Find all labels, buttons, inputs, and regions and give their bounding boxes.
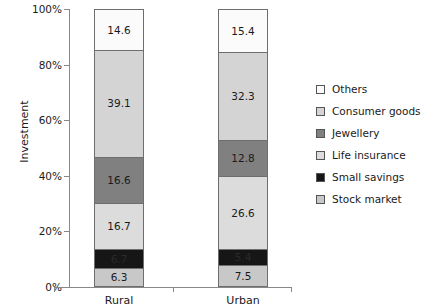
legend-item-label: Life insurance — [332, 149, 406, 161]
bar-segment-value: 6.7 — [111, 254, 128, 265]
bar-rural: 14.639.116.616.76.76.3 — [94, 9, 144, 287]
bar-segment-value: 5.4 — [235, 252, 252, 263]
legend-swatch-icon — [316, 129, 325, 138]
legend-item: Jewellery — [316, 122, 425, 144]
stacked-bar-chart: Investment 0%20%40%60%80%100% 14.639.116… — [0, 0, 425, 305]
bar-segment: 15.4 — [218, 9, 268, 52]
bar-segment: 32.3 — [218, 52, 268, 141]
bar-segment: 16.7 — [94, 203, 144, 249]
bar-urban: 15.432.312.826.65.47.5 — [218, 9, 268, 287]
bar-segment: 26.6 — [218, 176, 268, 249]
x-axis-category-label: Urban — [198, 294, 288, 305]
y-axis-tick-label: 20% — [18, 225, 62, 237]
legend-item-label: Stock market — [332, 193, 402, 205]
y-axis-tick-label: 100% — [18, 3, 62, 15]
legend-item-label: Small savings — [332, 171, 404, 183]
legend-swatch-icon — [316, 85, 325, 94]
x-axis-tick-mark — [54, 287, 55, 292]
plot-area: 14.639.116.616.76.76.3 15.432.312.826.65… — [69, 9, 291, 287]
legend-item: Small savings — [316, 166, 425, 188]
y-axis-tick-labels: 0%20%40%60%80%100% — [18, 0, 62, 305]
legend-swatch-icon — [316, 195, 325, 204]
bar-segment-value: 16.6 — [107, 175, 130, 186]
y-axis-tick-label: 80% — [18, 59, 62, 71]
legend-item-label: Others — [332, 83, 367, 95]
bar-segment-value: 6.3 — [111, 272, 128, 283]
legend-item: Others — [316, 78, 425, 100]
legend-swatch-icon — [316, 173, 325, 182]
legend-item: Life insurance — [316, 144, 425, 166]
bar-segment: 39.1 — [94, 50, 144, 157]
legend-swatch-icon — [316, 151, 325, 160]
bar-segment-value: 7.5 — [235, 271, 252, 282]
legend-item-label: Jewellery — [332, 127, 379, 139]
x-axis-tick-mark — [291, 287, 292, 292]
chart-legend: OthersConsumer goodsJewelleryLife insura… — [316, 78, 425, 210]
bar-segment-value: 16.7 — [107, 221, 130, 232]
bar-segment: 7.5 — [218, 265, 268, 287]
bar-segment-value: 14.6 — [107, 25, 130, 36]
bar-segment: 14.6 — [94, 9, 144, 50]
legend-item: Consumer goods — [316, 100, 425, 122]
bar-segment: 5.4 — [218, 249, 268, 265]
legend-item-label: Consumer goods — [332, 105, 421, 117]
bar-segment: 6.3 — [94, 268, 144, 287]
bar-segment-value: 39.1 — [107, 98, 130, 109]
bar-segment-value: 26.6 — [231, 208, 254, 219]
y-axis-tick-label: 40% — [18, 170, 62, 182]
bar-segment: 12.8 — [218, 140, 268, 176]
bar-segment-value: 15.4 — [231, 26, 254, 37]
bar-segment-value: 32.3 — [231, 91, 254, 102]
x-axis-category-label: Rural — [74, 294, 164, 305]
bar-segment: 6.7 — [94, 249, 144, 268]
y-axis-tick-label: 60% — [18, 114, 62, 126]
legend-swatch-icon — [316, 107, 325, 116]
bar-segment: 16.6 — [94, 157, 144, 203]
bar-segment-value: 12.8 — [231, 153, 254, 164]
x-axis-tick-mark — [173, 287, 174, 292]
legend-item: Stock market — [316, 188, 425, 210]
